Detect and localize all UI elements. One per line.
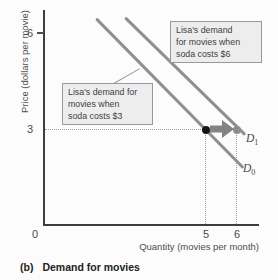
demand-figure: Price (dollars per movie) Quantity (movi…	[0, 0, 278, 280]
x-tick-label-6: 6	[230, 228, 244, 240]
y-tick-mark-6	[37, 32, 44, 34]
curve-label-d1-subscript: 1	[254, 138, 258, 147]
curve-label-d0: D0	[243, 162, 255, 177]
x-axis-line	[43, 224, 259, 226]
callout-soda-costs-3: Lisa's demand for movies when soda costs…	[62, 83, 153, 125]
caption-text: Demand for movies	[42, 261, 139, 273]
y-tick-label-6: 6	[27, 27, 33, 39]
callout-soda-costs-6: Lisa's demand for movies when soda costs…	[170, 21, 262, 63]
curve-label-d0-subscript: 0	[251, 168, 255, 177]
curve-label-d1: D1	[246, 132, 258, 147]
figure-caption: (b) Demand for movies	[20, 261, 140, 273]
quantity-5-dotted-guide	[205, 131, 206, 224]
rightward-shift-arrow-icon	[210, 120, 234, 138]
callout-d0-line2: movies when	[68, 98, 148, 110]
callout-d1-line2: for movies when	[176, 36, 257, 48]
origin-label: 0	[32, 228, 38, 240]
point-5-3-marker	[202, 126, 210, 134]
caption-prefix: (b)	[20, 261, 33, 273]
quantity-6-dotted-guide	[236, 129, 237, 224]
x-axis-title: Quantity (movies per month)	[99, 241, 259, 252]
point-6-3-marker	[233, 126, 241, 134]
y-axis-line	[43, 10, 45, 226]
x-tick-label-5: 5	[199, 228, 213, 240]
callout-d0-line1: Lisa's demand for	[68, 86, 148, 98]
callout-d1-line1: Lisa's demand	[176, 24, 257, 36]
y-tick-label-3: 3	[27, 123, 33, 135]
callout-d1-line3: soda costs $6	[176, 48, 257, 60]
callout-d0-line3: soda costs $3	[68, 110, 148, 122]
